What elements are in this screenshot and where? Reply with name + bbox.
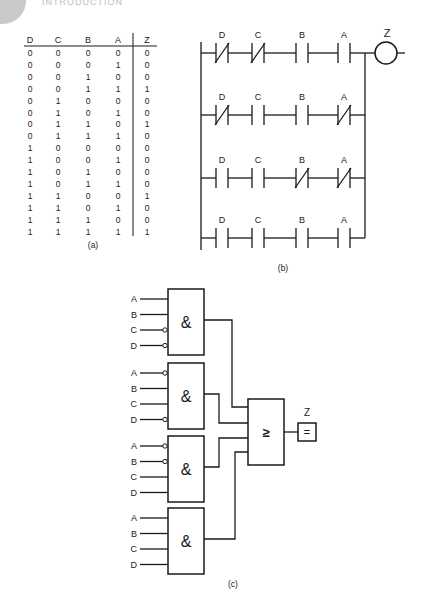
table-cell: 1 bbox=[28, 191, 33, 201]
input-label: D bbox=[131, 341, 138, 351]
and-gate-2: &ABCD bbox=[131, 363, 249, 429]
table-row: 00111 bbox=[28, 84, 150, 94]
table-cell: 0 bbox=[145, 215, 150, 225]
input-label: C bbox=[131, 399, 138, 409]
input-label: D bbox=[131, 415, 138, 425]
table-cell: 0 bbox=[28, 108, 33, 118]
table-cell: 0 bbox=[116, 191, 121, 201]
ladder-rung-2: DCBA bbox=[201, 92, 365, 125]
output-label: Z bbox=[304, 407, 310, 418]
contact-label: A bbox=[341, 155, 347, 165]
input-label: A bbox=[131, 368, 137, 378]
table-row: 00100 bbox=[28, 72, 150, 82]
table-cell: 0 bbox=[145, 108, 150, 118]
inversion-bubble bbox=[163, 371, 167, 375]
table-cell: 0 bbox=[145, 167, 150, 177]
table-cell: 1 bbox=[116, 60, 121, 70]
and-gate-3: &ABCD bbox=[131, 436, 249, 502]
or-symbol: ≥ bbox=[262, 425, 269, 440]
table-row: 10100 bbox=[28, 167, 150, 177]
output-wire bbox=[204, 452, 248, 539]
table-cell: 0 bbox=[145, 96, 150, 106]
table-row: 10010 bbox=[28, 155, 150, 165]
normally-open-contact: B bbox=[296, 30, 308, 63]
table-cell: 0 bbox=[145, 131, 150, 141]
contact-label: B bbox=[299, 155, 305, 165]
table-cell: 1 bbox=[28, 179, 33, 189]
ladder-rung-1: DCBA bbox=[201, 30, 365, 63]
and-symbol: & bbox=[181, 533, 192, 550]
contact-label: A bbox=[341, 215, 347, 225]
table-cell: 0 bbox=[116, 96, 121, 106]
contact-label: C bbox=[255, 215, 262, 225]
normally-open-contact: D bbox=[216, 215, 228, 248]
normally-open-contact: B bbox=[296, 92, 308, 125]
table-row: 01010 bbox=[28, 108, 150, 118]
input-label: B bbox=[131, 310, 137, 320]
table-cell: 1 bbox=[116, 131, 121, 141]
caption-b: (b) bbox=[278, 263, 289, 273]
table-cell: 1 bbox=[116, 203, 121, 213]
table-cell: 1 bbox=[116, 179, 121, 189]
contact-label: C bbox=[255, 92, 262, 102]
table-cell: 0 bbox=[116, 215, 121, 225]
table-cell: 0 bbox=[28, 72, 33, 82]
input-label: C bbox=[131, 544, 138, 554]
and-symbol: & bbox=[181, 314, 192, 331]
table-cell: 0 bbox=[28, 84, 33, 94]
table-cell: 1 bbox=[86, 119, 91, 129]
table-cell: 1 bbox=[86, 167, 91, 177]
contact-slash bbox=[251, 43, 265, 63]
table-cell: 1 bbox=[86, 72, 91, 82]
table-row: 10110 bbox=[28, 179, 150, 189]
coil-label: Z bbox=[384, 27, 391, 39]
table-cell: 0 bbox=[116, 143, 121, 153]
contact-label: B bbox=[299, 92, 305, 102]
table-cell: 0 bbox=[145, 72, 150, 82]
column-header-b: B bbox=[85, 35, 91, 45]
output-wire bbox=[204, 394, 248, 423]
input-label: C bbox=[131, 325, 138, 335]
table-cell: 1 bbox=[145, 227, 150, 237]
table-cell: 0 bbox=[145, 155, 150, 165]
output-coil bbox=[375, 42, 397, 64]
table-cell: 1 bbox=[145, 119, 150, 129]
table-row: 01000 bbox=[28, 96, 150, 106]
table-cell: 1 bbox=[56, 108, 61, 118]
table-cell: 0 bbox=[86, 48, 91, 58]
contact-label: D bbox=[219, 155, 226, 165]
normally-open-contact: A bbox=[338, 30, 350, 63]
table-row: 00010 bbox=[28, 60, 150, 70]
truth-table: DCBAZ00000000100010000111010000101001101… bbox=[24, 33, 157, 250]
table-cell: 1 bbox=[28, 155, 33, 165]
normally-open-contact: C bbox=[252, 155, 264, 188]
contact-slash bbox=[337, 105, 351, 125]
input-label: B bbox=[131, 384, 137, 394]
or-gate: ≥=Z bbox=[248, 399, 316, 465]
table-cell: 0 bbox=[56, 143, 61, 153]
table-cell: 0 bbox=[86, 203, 91, 213]
table-cell: 0 bbox=[116, 167, 121, 177]
output-symbol: = bbox=[304, 426, 310, 438]
inversion-bubble bbox=[163, 417, 167, 421]
table-cell: 1 bbox=[86, 227, 91, 237]
table-cell: 1 bbox=[56, 215, 61, 225]
contact-label: C bbox=[255, 155, 262, 165]
table-cell: 1 bbox=[28, 203, 33, 213]
table-row: 10000 bbox=[28, 143, 150, 153]
normally-closed-contact: A bbox=[337, 155, 351, 188]
table-cell: 1 bbox=[28, 143, 33, 153]
normally-closed-contact: B bbox=[295, 155, 309, 188]
table-row: 11111 bbox=[28, 227, 150, 237]
table-cell: 0 bbox=[145, 60, 150, 70]
contact-label: D bbox=[219, 30, 226, 40]
table-cell: 1 bbox=[56, 191, 61, 201]
inversion-bubble bbox=[163, 343, 167, 347]
table-cell: 0 bbox=[145, 179, 150, 189]
table-cell: 1 bbox=[56, 119, 61, 129]
column-header-c: C bbox=[55, 35, 62, 45]
input-label: A bbox=[131, 294, 137, 304]
normally-closed-contact: A bbox=[337, 92, 351, 125]
table-row: 11001 bbox=[28, 191, 150, 201]
table-cell: 1 bbox=[116, 108, 121, 118]
